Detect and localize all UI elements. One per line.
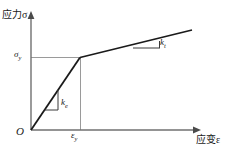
diagram-canvas	[0, 0, 235, 149]
ke-subscript: e	[65, 102, 68, 109]
y-axis-title: 应力σ	[2, 10, 27, 20]
y-axis-arrowhead	[28, 11, 35, 19]
stress-strain-curve	[31, 30, 192, 130]
sigma-subscript: y	[18, 54, 21, 61]
epsilon-subscript: y	[75, 135, 78, 142]
x-axis-title: 应变ε	[196, 135, 220, 145]
kt-subscript: t	[164, 42, 166, 49]
elastic-slope-label: ke	[61, 98, 68, 109]
hardening-segment	[80, 30, 192, 58]
stress-strain-diagram: 应力σ 应变ε σy εy O kt ke	[0, 0, 235, 149]
y-axis-tick-sigma-y: σy	[14, 50, 21, 61]
axis-lines	[31, 16, 196, 130]
tangent-slope-label: kt	[160, 38, 166, 49]
x-axis-tick-epsilon-y: εy	[71, 131, 77, 142]
origin-label: O	[16, 126, 24, 137]
x-axis-arrowhead	[193, 127, 201, 134]
elastic-segment	[31, 58, 80, 131]
